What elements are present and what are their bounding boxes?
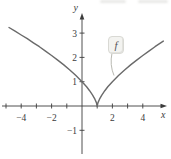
y-axis-arrow <box>80 13 85 20</box>
y-tick-label: 3 <box>72 29 77 39</box>
x-tick-label: 2 <box>110 113 115 123</box>
x-axis-label: x <box>160 109 166 120</box>
x-tick-label: 4 <box>140 113 145 123</box>
y-tick-label: 2 <box>72 53 77 63</box>
curve-f <box>9 28 163 107</box>
y-tick-label: 1 <box>72 77 77 87</box>
y-axis-label: y <box>73 2 79 13</box>
callout-tail <box>111 53 114 76</box>
x-tick-label: −4 <box>16 113 26 123</box>
function-graph-figure: −4−224−1123xy f <box>0 0 171 159</box>
curve-label-f: f <box>114 40 117 51</box>
y-tick-label: −1 <box>67 126 77 136</box>
curve-label-callout: f <box>108 36 124 54</box>
x-tick-label: −2 <box>47 113 57 123</box>
axes-plot: −4−224−1123xy <box>0 0 171 159</box>
